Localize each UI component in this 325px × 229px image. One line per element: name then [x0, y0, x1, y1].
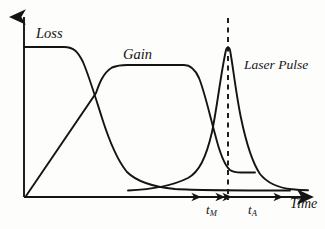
t-a-label: tA [248, 203, 257, 218]
figure-container: Loss Gain Laser Pulse Time tM tA [0, 0, 325, 229]
t-m-subscript: M [210, 208, 217, 218]
laser-pulse-label: Laser Pulse [244, 58, 308, 72]
t-a-subscript: A [252, 208, 257, 218]
gain-label: Gain [123, 47, 152, 62]
t-m-label: tM [206, 203, 217, 218]
loss-label: Loss [36, 26, 63, 41]
time-axis-label: Time [290, 197, 317, 211]
